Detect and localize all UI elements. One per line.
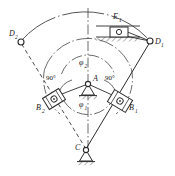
right-angle-arc-left <box>59 80 72 92</box>
label-joint-d1-subscript: 1 <box>161 42 164 48</box>
label-joint-d1: D <box>154 37 161 46</box>
slider-guide-hatching <box>96 37 140 42</box>
mechanism-diagram: A C E 1 D 1 D 2 B 1 B 2 φ 1 φ 2 90° 90° <box>0 0 175 176</box>
pin-joint-d1 <box>147 38 153 44</box>
label-pivot-a: A <box>92 74 98 83</box>
label-block-b2-subscript: 2 <box>42 108 45 114</box>
label-slider-e1: E <box>112 12 118 21</box>
label-right-angle-left: 90° <box>46 74 56 82</box>
label-slider-e1-subscript: 1 <box>119 17 122 23</box>
pin-joint-d2 <box>18 39 24 45</box>
label-joint-d2-subscript: 2 <box>15 34 18 40</box>
label-angle-phi2: φ <box>79 58 84 67</box>
label-block-b1-subscript: 1 <box>135 108 138 114</box>
label-block-b1: B <box>129 103 134 112</box>
label-angle-phi1: φ <box>79 100 84 109</box>
diagram-canvas: A C E 1 D 1 D 2 B 1 B 2 φ 1 φ 2 90° 90° <box>0 0 175 176</box>
label-block-b2: B <box>36 103 41 112</box>
label-angle-phi1-subscript: 1 <box>85 105 88 111</box>
label-pivot-c: C <box>75 143 81 152</box>
label-right-angle-right: 90° <box>105 74 115 82</box>
label-angle-phi2-subscript: 2 <box>85 63 88 69</box>
label-joint-d2: D <box>8 29 15 38</box>
slider-pin-e1 <box>116 29 121 34</box>
fixed-pivot-a <box>79 81 97 99</box>
slider-block-b2 <box>42 88 65 109</box>
